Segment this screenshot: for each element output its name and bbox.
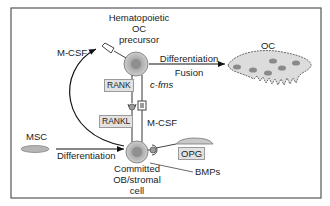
mcsf-receptor-icon xyxy=(102,43,126,58)
precursor-label-line2: OC xyxy=(104,23,174,34)
rank-label: RANK xyxy=(104,79,134,92)
oc-arrow-label-lower: Fusion xyxy=(150,67,228,78)
mcsf-top-label: M-CSF xyxy=(57,47,87,58)
cfms-label: c-fms xyxy=(150,79,173,90)
oc-label: OC xyxy=(258,40,278,51)
oc-arrow-label-upper: Differentiation xyxy=(150,53,228,64)
bmps-label: BMPs xyxy=(195,166,220,177)
opg-protein-icon xyxy=(176,138,213,144)
committed-label-line2: OB/stromal xyxy=(104,174,170,185)
committed-ob-cell xyxy=(126,141,148,163)
rankl-label: RANKL xyxy=(99,115,133,128)
precursor-cell xyxy=(124,52,148,76)
opg-binding-icon xyxy=(148,144,176,155)
precursor-label-line1: Hematopoietic xyxy=(104,12,174,23)
precursor-label-line3: precursor xyxy=(104,34,174,45)
committed-label-line1: Committed xyxy=(104,163,170,174)
committed-label-line3: cell xyxy=(104,185,170,196)
opg-label: OPG xyxy=(178,147,205,160)
msc-label: MSC xyxy=(26,131,47,142)
mcsf-mid-label: M-CSF xyxy=(147,117,177,128)
osteoclast-cell xyxy=(228,51,311,85)
cfms-mcsf-binding-icon xyxy=(138,101,146,110)
committed-label: Committed OB/stromal cell xyxy=(104,163,170,196)
msc-cell xyxy=(21,146,49,153)
msc-arrow-label: Differentiation xyxy=(57,150,115,161)
mcsf-secretion-arrow xyxy=(70,49,124,146)
rank-rankl-binding-icon xyxy=(128,104,136,110)
precursor-label: Hematopoietic OC precursor xyxy=(104,12,174,45)
